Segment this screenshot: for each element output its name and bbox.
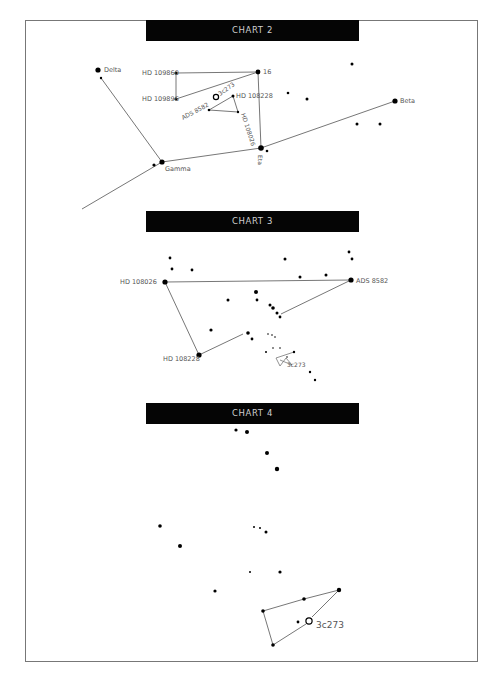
star-dot-icon — [209, 328, 212, 331]
constellation-line — [304, 590, 339, 599]
star-dot-icon — [253, 526, 255, 528]
star-dot-icon — [246, 331, 250, 335]
star-dot-icon — [314, 379, 316, 381]
star-label: 16 — [263, 68, 271, 76]
constellation-line — [312, 590, 339, 617]
star-label: HD 109896 — [142, 95, 179, 103]
star-dot-icon — [337, 588, 341, 592]
constellation-line — [258, 72, 261, 148]
star-dot-icon — [279, 347, 281, 349]
star-dot-icon — [379, 123, 382, 126]
quasar-marker-icon — [306, 618, 312, 624]
star-dot-icon — [274, 336, 276, 338]
star-dot-icon — [325, 274, 328, 277]
star-dot-icon — [356, 123, 359, 126]
star-chart-3: HD 108026ADS 8582HD 1082283c273 — [120, 251, 388, 382]
star-dot-icon — [269, 304, 272, 307]
star-dot-icon — [254, 290, 258, 294]
star-dot-icon — [95, 67, 100, 72]
star-dot-icon — [392, 98, 397, 103]
constellation-line — [199, 334, 243, 355]
star-dot-icon — [191, 269, 194, 272]
star-dot-icon — [284, 258, 287, 261]
star-dot-icon — [258, 145, 264, 151]
star-dot-icon — [265, 451, 269, 455]
star-dot-icon — [299, 276, 302, 279]
star-label: 3c273 — [316, 620, 344, 630]
star-dot-icon — [213, 589, 216, 592]
star-dot-icon — [249, 571, 251, 573]
star-dot-icon — [158, 524, 162, 528]
star-dot-icon — [293, 351, 295, 353]
star-label: HD 109860 — [142, 69, 179, 77]
star-dot-icon — [171, 268, 174, 271]
star-dot-icon — [278, 570, 281, 573]
star-dot-icon — [271, 306, 275, 310]
constellation-line — [176, 72, 258, 73]
star-dot-icon — [297, 621, 300, 624]
star-label: HD 108026 — [120, 278, 157, 286]
star-dot-icon — [276, 312, 279, 315]
constellation-line — [165, 280, 351, 282]
star-dot-icon — [271, 643, 275, 647]
star-dot-icon — [259, 527, 261, 529]
star-dot-icon — [265, 351, 267, 353]
star-dot-icon — [152, 163, 155, 166]
star-dot-icon — [208, 109, 211, 112]
star-dot-icon — [351, 258, 354, 261]
star-dot-icon — [178, 544, 182, 548]
star-dot-icon — [256, 299, 259, 302]
constellation-line — [263, 599, 304, 611]
star-dot-icon — [275, 467, 279, 471]
star-dot-icon — [265, 531, 268, 534]
star-dot-icon — [272, 347, 274, 349]
star-chart-2: DeltaHD 109860HD 10989616HD 1082283c273A… — [82, 63, 415, 210]
star-dot-icon — [232, 95, 235, 98]
constellation-line — [273, 624, 306, 645]
star-dot-icon — [351, 63, 354, 66]
star-label: Delta — [104, 66, 121, 74]
constellation-line — [209, 110, 238, 112]
star-dot-icon — [234, 428, 237, 431]
star-label: HD 108228 — [236, 92, 273, 100]
star-dot-icon — [227, 299, 230, 302]
star-charts: DeltaHD 109860HD 10989616HD 1082283c273A… — [0, 0, 494, 678]
star-dot-icon — [348, 277, 353, 282]
star-dot-icon — [256, 70, 261, 75]
star-dot-icon — [162, 279, 167, 284]
star-label: Eta — [257, 155, 264, 165]
star-chart-4: 3c273 — [158, 428, 344, 646]
star-label: ADS 8582 — [356, 277, 388, 285]
constellation-line — [209, 96, 233, 110]
star-label: HD 108026 — [240, 112, 257, 147]
star-dot-icon — [286, 356, 288, 358]
star-dot-icon — [302, 597, 306, 601]
constellation-line — [162, 148, 261, 162]
star-dot-icon — [309, 371, 311, 373]
star-dot-icon — [251, 338, 254, 341]
star-label: Beta — [400, 97, 415, 105]
constellation-line — [281, 280, 351, 314]
star-dot-icon — [287, 92, 290, 95]
star-dot-icon — [306, 98, 309, 101]
star-dot-icon — [271, 334, 273, 336]
star-dot-icon — [348, 251, 351, 254]
star-dot-icon — [237, 111, 239, 113]
constellation-line — [165, 282, 199, 355]
star-dot-icon — [159, 159, 164, 164]
star-dot-icon — [245, 430, 249, 434]
quasar-marker-icon — [213, 94, 218, 99]
star-label: ADS 8582 — [180, 101, 210, 121]
constellation-line — [101, 78, 162, 162]
star-label: 3c273 — [287, 361, 306, 368]
star-dot-icon — [266, 150, 269, 153]
constellation-line — [82, 162, 162, 209]
star-dot-icon — [267, 333, 269, 335]
star-label: HD 108228 — [163, 355, 200, 363]
constellation-line — [261, 101, 395, 148]
star-label: Gamma — [165, 165, 191, 173]
star-dot-icon — [169, 257, 172, 260]
constellation-line — [263, 611, 273, 645]
star-dot-icon — [261, 609, 265, 613]
star-dot-icon — [279, 316, 282, 319]
